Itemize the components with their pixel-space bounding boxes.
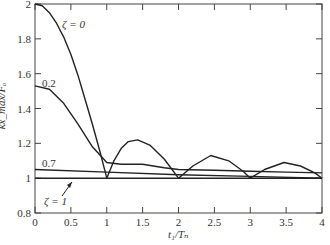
x-tick-label: 0.5 [64, 216, 78, 228]
x-axis-label: t₁/Tₙ [168, 228, 189, 241]
x-tick-label: 4 [319, 216, 325, 228]
y-axis-label: kx_max/Fₒ [0, 83, 7, 130]
x-tick-label: 0 [32, 216, 38, 228]
shock-spectrum-chart: 00.511.522.533.540.811.21.41.61.82 [0, 0, 330, 245]
x-tick-label: 1 [104, 216, 110, 228]
x-tick-label: 2 [176, 216, 182, 228]
y-tick-label: 1 [26, 172, 32, 184]
y-tick-label: 2 [26, 0, 32, 10]
y-tick-label: 1.6 [17, 68, 31, 80]
plot-frame [35, 4, 322, 213]
x-tick-label: 3.5 [279, 216, 293, 228]
y-tick-label: 1.8 [17, 33, 31, 45]
x-tick-label: 3 [248, 216, 254, 228]
series-line-2 [35, 170, 322, 179]
annotation-zeta-1: ζ = 1 [44, 195, 67, 207]
x-tick-label: 1.5 [136, 216, 150, 228]
y-tick-label: 1.2 [17, 137, 31, 149]
y-tick-label: 1.4 [17, 103, 31, 115]
annotation-zeta-0.7: 0.7 [42, 157, 56, 169]
y-tick-label: 0.8 [17, 207, 31, 219]
series-line-1 [35, 86, 322, 173]
annotation-zeta-0.2: 0.2 [42, 77, 56, 89]
series-line-0 [35, 4, 322, 178]
annotation-zeta-0: ζ = 0 [62, 18, 85, 30]
x-tick-label: 2.5 [208, 216, 222, 228]
